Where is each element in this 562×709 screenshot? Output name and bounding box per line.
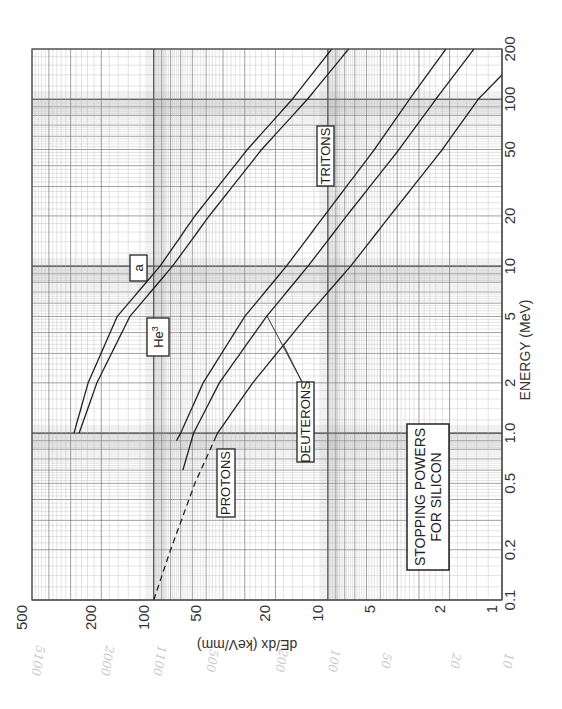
pencil-note: 2000 bbox=[98, 643, 117, 677]
svg-text:TRITONS: TRITONS bbox=[318, 127, 333, 184]
energy-axis-title: ENERGY (MeV) bbox=[517, 300, 533, 401]
energy-tick-label: 1.0 bbox=[501, 423, 518, 444]
energy-axis-ticks: 0.10.20.51.025102050100200 bbox=[501, 36, 518, 610]
protons-label: PROTONS bbox=[217, 449, 235, 517]
energy-tick-label: 50 bbox=[501, 141, 518, 158]
energy-tick-label: 100 bbox=[501, 87, 518, 112]
dedx-tick-label: 50 bbox=[187, 605, 204, 622]
energy-tick-label: 5 bbox=[501, 312, 518, 320]
svg-text:PROTONS: PROTONS bbox=[218, 451, 233, 515]
alpha-label: a bbox=[130, 255, 147, 281]
chart-title-box: STOPPING POWERS FOR SILICON bbox=[407, 424, 449, 570]
energy-tick-label: 0.1 bbox=[501, 590, 518, 611]
dedx-tick-label: 10 bbox=[309, 605, 326, 622]
chart-title-line1: STOPPING POWERS bbox=[412, 428, 428, 566]
dedx-tick-label: 5 bbox=[361, 605, 378, 613]
pencil-note: 10 bbox=[500, 652, 517, 670]
energy-tick-label: 0.2 bbox=[501, 539, 518, 560]
pencil-note: 5100 bbox=[28, 644, 47, 677]
dedx-tick-label: 1 bbox=[483, 605, 500, 613]
dedx-tick-label: 100 bbox=[135, 605, 152, 630]
chart-title-line2: FOR SILICON bbox=[428, 452, 444, 541]
he3-label: He3 bbox=[147, 318, 169, 356]
stopping-power-chart: 0.10.20.51.025102050100200 ENERGY (MeV) … bbox=[0, 0, 562, 709]
pencil-note: 1100 bbox=[150, 644, 169, 677]
pencil-note: 50 bbox=[378, 652, 395, 670]
svg-text:a: a bbox=[131, 264, 146, 272]
energy-tick-label: 20 bbox=[501, 208, 518, 225]
pencil-note: 100 bbox=[325, 648, 343, 673]
tritons-label: TRITONS bbox=[317, 126, 334, 186]
energy-tick-label: 10 bbox=[501, 258, 518, 275]
pencil-note: 20 bbox=[447, 651, 464, 670]
dedx-tick-label: 2 bbox=[431, 605, 448, 613]
svg-text:DEUTERONS: DEUTERONS bbox=[298, 381, 313, 463]
dedx-tick-label: 20 bbox=[256, 605, 273, 622]
dedx-axis-ticks: 500200100502010521 bbox=[13, 605, 500, 630]
energy-tick-label: 0.5 bbox=[501, 473, 518, 494]
energy-tick-label: 200 bbox=[501, 36, 518, 61]
energy-tick-label: 2 bbox=[501, 379, 518, 387]
dedx-tick-label: 200 bbox=[82, 605, 99, 630]
dedx-tick-label: 500 bbox=[13, 605, 30, 630]
